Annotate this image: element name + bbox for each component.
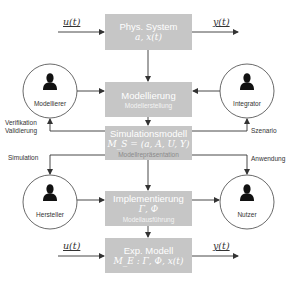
signal-output-top: y(t) bbox=[213, 16, 230, 27]
signal-output-bottom: y(t) bbox=[213, 240, 230, 251]
box-subtitle: Modellrepräsentation bbox=[118, 150, 179, 159]
box-simulationsmodell: Simulationsmodell M_S = (a, A, U, Y) Mod… bbox=[105, 126, 192, 160]
box-math: M_S = (a, A, U, Y) bbox=[108, 139, 190, 150]
box-exp-modell: Exp. Modell M_E : Γ, Φ, x(t) bbox=[105, 238, 192, 273]
edge-label-simulation: Simulation bbox=[8, 154, 38, 162]
signal-input-top: u(t) bbox=[63, 16, 80, 27]
box-title: Phys. System bbox=[119, 21, 177, 32]
box-modellierung: Modellierung Modellerstellung bbox=[105, 82, 192, 117]
edge-label-validierung: Validierung bbox=[5, 127, 37, 135]
box-subtitle: Modellausführung bbox=[123, 215, 175, 224]
box-title: Modellierung bbox=[121, 90, 175, 101]
box-title: Implementierung bbox=[113, 193, 184, 204]
box-math: M_E : Γ, Φ, x(t) bbox=[114, 256, 184, 267]
actor-nutzer: Nutzer bbox=[219, 211, 275, 218]
edge-label-verifikation: Verifikation bbox=[5, 119, 37, 127]
box-subtitle: Modellerstellung bbox=[125, 101, 172, 110]
box-phys-system: Phys. System a, x(t) bbox=[105, 14, 192, 50]
box-title: Exp. Modell bbox=[124, 245, 174, 256]
actor-circle-modellierer bbox=[23, 64, 77, 118]
box-math: a, x(t) bbox=[135, 32, 162, 43]
edge-label-szenario: Szenario bbox=[251, 127, 277, 135]
actor-circle-hersteller bbox=[23, 175, 77, 229]
box-title: Simulationsmodell bbox=[110, 128, 187, 139]
signal-input-bottom: u(t) bbox=[63, 240, 80, 251]
actor-circle-nutzer bbox=[220, 175, 274, 229]
actor-circle-integrator bbox=[220, 64, 274, 118]
actor-modellierer: Modellierer bbox=[22, 100, 78, 107]
actor-integrator: Integrator bbox=[219, 100, 275, 107]
actor-hersteller: Hersteller bbox=[22, 211, 78, 218]
box-math: Γ, Φ bbox=[139, 204, 158, 215]
box-implementierung: Implementierung Γ, Φ Modellausführung bbox=[105, 191, 192, 226]
edge-label-anwendung: Anwendung bbox=[251, 155, 285, 163]
